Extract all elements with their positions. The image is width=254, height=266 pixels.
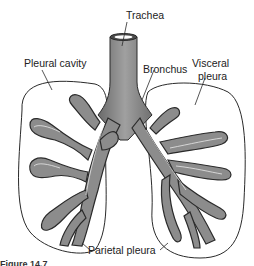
- label-bronchus: Bronchus: [143, 64, 187, 75]
- figure-caption-fragment: Figure 14.7: [0, 259, 48, 266]
- label-trachea: Trachea: [126, 10, 164, 21]
- label-visceral-pleura-line1: Visceral: [192, 58, 229, 69]
- label-pleural-cavity: Pleural cavity: [24, 58, 86, 69]
- label-parietal-pleura: Parietal pleura: [88, 245, 156, 256]
- lung-diagram: [0, 0, 254, 266]
- label-visceral-pleura-line2: pleura: [198, 71, 227, 82]
